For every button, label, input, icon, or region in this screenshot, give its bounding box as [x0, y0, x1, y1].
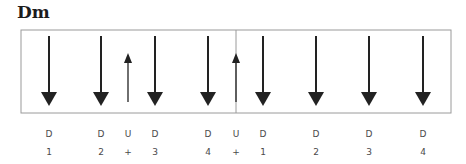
down-arrow-icon	[255, 36, 271, 106]
down-arrow-icon	[308, 36, 324, 106]
stroke-label: U	[226, 128, 246, 140]
stroke-label: D	[253, 128, 273, 140]
count-label: +	[226, 146, 246, 158]
down-arrow-icon	[93, 36, 109, 106]
stroke-label: D	[306, 128, 326, 140]
count-label: 3	[359, 146, 379, 158]
down-arrow-icon	[147, 36, 163, 106]
count-label: 3	[145, 146, 165, 158]
count-label: 4	[198, 146, 218, 158]
down-arrow-icon	[415, 36, 431, 106]
count-label: 2	[306, 146, 326, 158]
stroke-label: D	[145, 128, 165, 140]
stroke-label: D	[359, 128, 379, 140]
stroke-label: D	[91, 128, 111, 140]
count-label: 4	[413, 146, 433, 158]
stroke-label: D	[198, 128, 218, 140]
stroke-label: U	[118, 128, 138, 140]
down-arrow-icon	[200, 36, 216, 106]
stroke-label: D	[413, 128, 433, 140]
count-label: 2	[91, 146, 111, 158]
up-arrow-icon	[232, 53, 240, 102]
down-arrow-icon	[361, 36, 377, 106]
stroke-label: D	[39, 128, 59, 140]
down-arrow-icon	[41, 36, 57, 106]
count-label: +	[118, 146, 138, 158]
count-label: 1	[253, 146, 273, 158]
up-arrow-icon	[124, 53, 132, 102]
count-label: 1	[39, 146, 59, 158]
